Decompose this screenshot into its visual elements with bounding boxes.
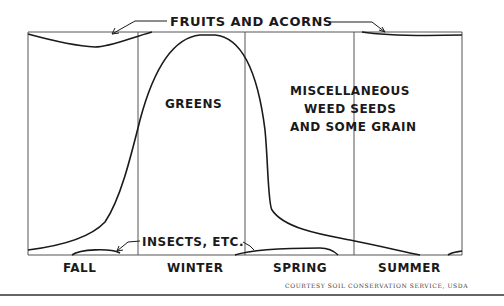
misc-label-line3: AND SOME GRAIN [290, 120, 417, 134]
greens-curve [28, 35, 420, 255]
season-summer: SUMMER [378, 261, 441, 275]
food-seasonal-diagram: FRUITS AND ACORNS GREENS MISCELLANEOUS W… [0, 0, 504, 306]
greens-label: GREENS [165, 97, 222, 111]
credit-line: COURTESY SOIL CONSERVATION SERVICE, USDA [285, 282, 468, 289]
insects-label: INSECTS, ETC. [142, 235, 244, 249]
misc-label-line2: WEED SEEDS [304, 102, 396, 116]
chart-frame [28, 32, 462, 255]
insects-curve-summer [448, 251, 462, 255]
season-fall: FALL [63, 261, 96, 275]
insects-leader-left [117, 241, 140, 251]
season-winter: WINTER [167, 261, 223, 275]
fruits-acorns-curve-summer [362, 32, 462, 35]
insects-curve-fall [72, 250, 120, 255]
misc-label-line1: MISCELLANEOUS [290, 84, 410, 98]
fruits-leader-right [328, 22, 385, 32]
fruits-acorns-curve [28, 32, 152, 47]
insects-curve-spring [235, 248, 338, 255]
fruits-acorns-label: FRUITS AND ACORNS [170, 14, 333, 29]
season-spring: SPRING [273, 261, 327, 275]
